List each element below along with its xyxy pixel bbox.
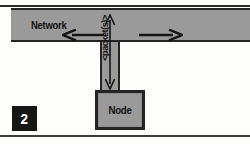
node-box: Node (95, 90, 145, 130)
step-badge-number: 2 (21, 111, 29, 126)
packet-flow-label: <packet(s)> (98, 0, 112, 76)
frame-rule-bottom (0, 135, 250, 137)
arrow-right-icon (139, 29, 183, 41)
frame-rule-top (0, 5, 250, 7)
step-badge: 2 (12, 106, 37, 131)
network-bus-bar: Network (11, 8, 250, 42)
node-label: Node (101, 93, 140, 127)
figure-network-node-diagram: Network <packet(s)> Node 2 (0, 0, 250, 144)
